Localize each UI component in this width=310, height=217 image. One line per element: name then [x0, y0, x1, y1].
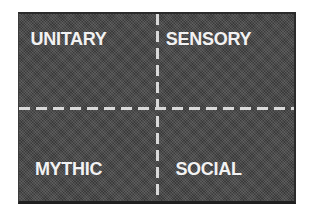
horizontal-dashed-divider: [19, 107, 294, 110]
quadrant-label-mythic: MYTHIC: [0, 159, 137, 179]
quadrant-label-sensory: SENSORY: [140, 29, 277, 49]
quadrant-label-unitary: UNITARY: [0, 29, 137, 49]
quadrant-label-social: SOCIAL: [140, 159, 277, 179]
